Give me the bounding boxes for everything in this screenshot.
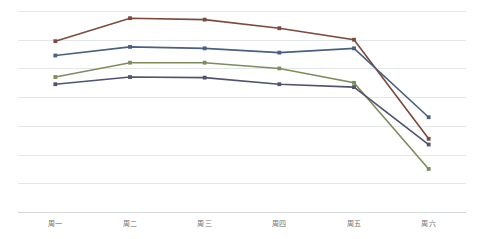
data-point-marker — [53, 82, 57, 86]
x-tick-label-6: 周六 — [421, 218, 435, 228]
data-point-marker — [427, 115, 431, 119]
data-point-marker — [128, 16, 132, 20]
data-point-marker — [53, 39, 57, 43]
x-tick-label-5: 周五 — [347, 218, 361, 228]
x-tick-label-1: 周一 — [48, 218, 62, 228]
x-tick-label-4: 周四 — [272, 218, 286, 228]
series-line-4 — [55, 77, 428, 144]
data-point-marker — [277, 67, 281, 71]
data-point-marker — [277, 51, 281, 55]
data-point-marker — [352, 38, 356, 42]
series-line-2 — [55, 47, 428, 117]
line-chart: 周一周二周三周四周五周六 — [0, 0, 479, 239]
data-point-marker — [203, 46, 207, 50]
data-point-marker — [53, 75, 57, 79]
data-point-marker — [352, 46, 356, 50]
data-point-marker — [277, 82, 281, 86]
data-point-marker — [203, 61, 207, 65]
data-point-marker — [427, 137, 431, 141]
data-point-marker — [53, 54, 57, 58]
chart-plot-area — [0, 0, 479, 239]
data-point-marker — [128, 45, 132, 49]
gridlines — [18, 12, 466, 184]
series-markers — [53, 16, 430, 171]
data-point-marker — [352, 81, 356, 85]
data-point-marker — [203, 76, 207, 80]
x-tick-label-3: 周三 — [197, 218, 211, 228]
x-tick-label-2: 周二 — [123, 218, 137, 228]
data-point-marker — [277, 26, 281, 30]
data-point-marker — [128, 75, 132, 79]
data-point-marker — [427, 167, 431, 171]
data-point-marker — [128, 61, 132, 65]
data-point-marker — [352, 85, 356, 89]
data-point-marker — [427, 143, 431, 147]
data-point-marker — [203, 18, 207, 22]
